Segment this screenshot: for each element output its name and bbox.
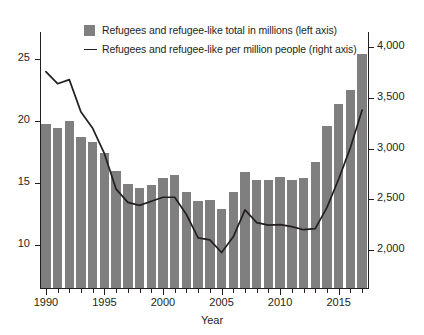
bar (229, 192, 238, 288)
bar (65, 121, 74, 288)
bar (182, 192, 191, 288)
x-axis-tick-label: 2015 (319, 296, 359, 308)
bar (158, 178, 167, 288)
x-axis-tick-minor (58, 289, 59, 293)
right-axis-tick (369, 149, 374, 150)
x-axis-tick-label: 1995 (84, 296, 124, 308)
x-axis-tick-minor (175, 289, 176, 293)
bar (170, 175, 179, 288)
bar-series (40, 32, 368, 288)
bar (88, 142, 97, 288)
bar (53, 128, 62, 288)
left-axis-tick (35, 245, 40, 246)
bar (111, 171, 120, 288)
x-axis-tick-minor (81, 289, 82, 293)
x-axis-tick-minor (186, 289, 187, 293)
left-axis-tick-label: 15 (2, 175, 30, 187)
x-axis-tick-minor (304, 289, 305, 293)
right-axis-tick-label: 2,500 (377, 191, 405, 203)
bar (299, 178, 308, 288)
bar (100, 153, 109, 288)
x-axis-tick-minor (210, 289, 211, 293)
x-axis-tick-minor (268, 289, 269, 293)
x-axis-tick-minor (350, 289, 351, 293)
bar (240, 172, 249, 288)
bar (334, 104, 343, 288)
x-axis-tick-minor (198, 289, 199, 293)
x-axis-tick-minor (69, 289, 70, 293)
bar (193, 201, 202, 288)
x-axis-tick-minor (233, 289, 234, 293)
x-axis-tick-label: 2010 (260, 296, 300, 308)
bar (205, 200, 214, 288)
left-axis-tick (35, 59, 40, 60)
bar (275, 177, 284, 288)
left-axis-tick-label: 10 (2, 237, 30, 249)
x-axis-tick-minor (93, 289, 94, 293)
x-axis-title: Year (0, 314, 424, 326)
x-axis-tick-major (46, 289, 47, 295)
right-axis-tick-label: 3,500 (377, 90, 405, 102)
left-axis-tick (35, 183, 40, 184)
x-axis-tick-major (339, 289, 340, 295)
x-axis-tick-label: 2005 (202, 296, 242, 308)
x-axis-tick-label: 2000 (143, 296, 183, 308)
x-axis-tick-major (163, 289, 164, 295)
x-axis-tick-minor (245, 289, 246, 293)
right-axis-tick-label: 3,000 (377, 141, 405, 153)
bar (41, 124, 50, 288)
bar (346, 90, 355, 288)
left-axis-tick (35, 121, 40, 122)
bar (252, 180, 261, 288)
right-axis-tick-label: 4,000 (377, 39, 405, 51)
left-axis-tick-label: 20 (2, 113, 30, 125)
bar (287, 180, 296, 288)
bar (76, 137, 85, 288)
x-axis-tick-major (222, 289, 223, 295)
x-axis-tick-major (280, 289, 281, 295)
right-axis-tick (369, 199, 374, 200)
x-axis-tick-minor (128, 289, 129, 293)
x-axis-tick-minor (151, 289, 152, 293)
right-axis-tick (369, 47, 374, 48)
x-axis-tick-minor (257, 289, 258, 293)
chart-container: Refugees and refugee-like total in milli… (0, 0, 424, 335)
bottom-axis-line (40, 288, 369, 289)
bar (135, 188, 144, 288)
bar (123, 184, 132, 288)
bar (147, 185, 156, 288)
bar (311, 162, 320, 288)
bar (357, 54, 366, 288)
x-axis-tick-minor (327, 289, 328, 293)
x-axis-tick-minor (116, 289, 117, 293)
right-axis-tick (369, 98, 374, 99)
x-axis-tick-label: 1990 (26, 296, 66, 308)
bar (217, 209, 226, 288)
x-axis-tick-minor (292, 289, 293, 293)
x-axis-tick-minor (315, 289, 316, 293)
right-axis-tick-label: 2,000 (377, 242, 405, 254)
x-axis-tick-major (104, 289, 105, 295)
bar (322, 126, 331, 288)
right-axis-tick (369, 250, 374, 251)
bar (264, 180, 273, 288)
x-axis-tick-minor (140, 289, 141, 293)
x-axis-tick-minor (362, 289, 363, 293)
left-axis-tick-label: 25 (2, 51, 30, 63)
